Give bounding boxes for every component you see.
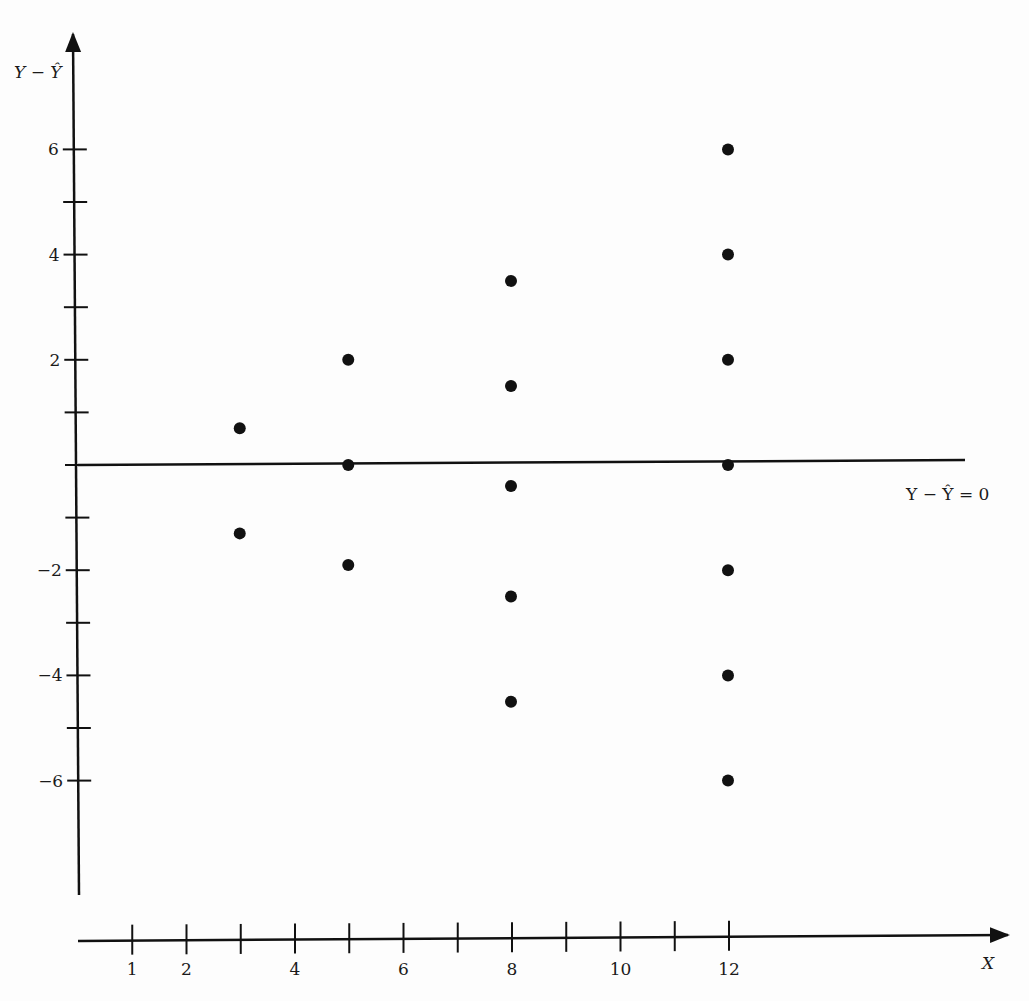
y-tick-label: 2: [49, 350, 60, 370]
x-tick-label: 1: [127, 959, 138, 979]
zero-reference-line: [78, 460, 965, 465]
x-tick-label: 10: [610, 959, 632, 979]
reference-line-label: Y − Ŷ = 0: [905, 484, 989, 504]
data-point: [234, 527, 246, 539]
data-point: [722, 143, 734, 155]
data-point: [342, 354, 354, 366]
x-tick-label: 4: [290, 959, 301, 979]
y-tick-label: 6: [48, 139, 59, 159]
data-points: [234, 143, 734, 786]
data-point: [722, 775, 734, 787]
data-point: [505, 591, 517, 603]
x-axis: [78, 935, 1008, 941]
x-tick-label: 6: [398, 959, 409, 979]
data-point: [722, 564, 734, 576]
x-tick-label: 12: [718, 959, 740, 979]
data-point: [722, 669, 734, 681]
x-tick-label: 2: [181, 959, 192, 979]
x-ticks: 124681012: [127, 921, 740, 979]
y-axis-title: Y − Ŷ: [14, 62, 63, 82]
x-axis-title: X: [980, 953, 995, 973]
y-tick-label: −4: [37, 665, 62, 685]
data-point: [505, 275, 517, 287]
data-point: [234, 422, 246, 434]
data-point: [342, 459, 354, 471]
data-point: [505, 380, 517, 392]
data-point: [722, 354, 734, 366]
residual-scatter-plot: Y − Ŷ 642−2−4−6 Y − Ŷ = 0 X 124681012: [0, 0, 1029, 1001]
y-tick-label: −2: [37, 560, 62, 580]
data-point: [505, 696, 517, 708]
y-tick-label: 4: [49, 245, 60, 265]
data-point: [722, 459, 734, 471]
data-point: [342, 559, 354, 571]
y-tick-label: −6: [38, 771, 63, 791]
x-tick-label: 8: [507, 959, 518, 979]
data-point: [505, 480, 517, 492]
data-point: [722, 249, 734, 261]
